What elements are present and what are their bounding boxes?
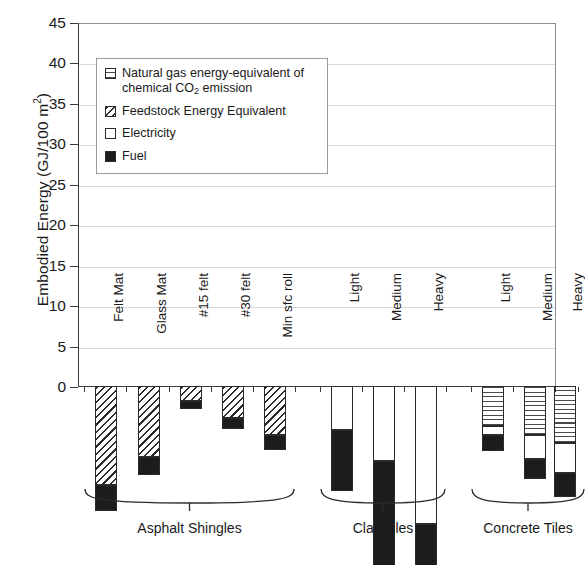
y-axis-tick-label: 35 — [8, 96, 66, 112]
feedstock-swatch-icon — [105, 106, 116, 117]
y-axis-tick-label: 10 — [8, 298, 66, 314]
group-brace-icon — [83, 487, 296, 513]
y-axis-title-text: Embodied Energy (GJ/100 m — [34, 104, 51, 306]
legend-label-natural-gas-line2post: emission — [199, 81, 252, 95]
bar-segment-fuel — [222, 418, 244, 429]
y-axis-tick — [70, 306, 78, 307]
y-axis-tick — [70, 23, 78, 24]
bar-segment-electricity — [373, 386, 395, 461]
legend-label-natural-gas-line1: Natural gas energy-equivalent of — [122, 66, 304, 80]
x-axis-category-label: Felt Mat — [111, 273, 126, 393]
bar-segment-fuel — [138, 457, 160, 475]
electricity-swatch-icon — [105, 128, 116, 139]
bar-segment-feedstock — [95, 386, 117, 485]
x-axis-category-label: Glass Mat — [154, 273, 169, 393]
x-axis-tick — [446, 387, 447, 392]
y-axis-tick — [70, 347, 78, 348]
y-axis-tick-label: 5 — [8, 339, 66, 355]
x-axis-category-label: Medium — [540, 273, 555, 393]
bar-segment-fuel — [180, 401, 202, 409]
bar-segment-fuel — [524, 459, 546, 479]
y-axis-tick-label: 25 — [8, 177, 66, 193]
legend-item-fuel: Fuel — [105, 149, 319, 164]
x-axis-tick — [253, 387, 254, 392]
y-axis-tick-label: 0 — [8, 379, 66, 395]
x-axis-category-label: #15 felt — [196, 273, 211, 393]
bar-segment-natural-gas — [554, 386, 576, 443]
x-axis-tick — [84, 387, 85, 392]
x-axis-tick — [295, 387, 296, 392]
y-axis-tick-label: 30 — [8, 136, 66, 152]
y-axis-tick-label: 15 — [8, 258, 66, 274]
x-axis-tick — [169, 387, 170, 392]
gridline — [79, 267, 555, 268]
x-axis-category-label: Light — [498, 273, 513, 393]
gridline — [79, 186, 555, 187]
group-label: Clay Tiles — [319, 520, 447, 536]
y-axis-tick-label: 45 — [8, 15, 66, 31]
legend-label-fuel: Fuel — [122, 149, 147, 164]
x-axis-tick — [362, 387, 363, 392]
x-axis-category-label: #30 felt — [238, 273, 253, 393]
legend: Natural gas energy-equivalent ofchemical… — [96, 58, 328, 174]
y-axis-tick — [70, 63, 78, 64]
bar-segment-feedstock — [264, 386, 286, 435]
legend-item-natural-gas: Natural gas energy-equivalent ofchemical… — [105, 66, 319, 97]
y-axis-tick-label: 20 — [8, 217, 66, 233]
group-brace-icon — [470, 487, 585, 513]
embodied-energy-chart: Embodied Energy (GJ/100 m2) 051015202530… — [0, 0, 585, 565]
fuel-swatch-icon — [105, 151, 116, 162]
x-axis-tick — [555, 387, 556, 392]
y-axis-tick — [70, 185, 78, 186]
legend-item-electricity: Electricity — [105, 126, 319, 141]
bar-segment-electricity — [524, 435, 546, 458]
x-axis-category-label: Medium — [389, 273, 404, 393]
x-axis-category-label: Min sfc roll — [280, 273, 295, 393]
bar-segment-feedstock — [138, 386, 160, 457]
bar-segment-fuel — [482, 435, 504, 451]
legend-label-natural-gas-sub: 2 — [194, 86, 199, 96]
x-axis-category-label: Light — [347, 273, 362, 393]
x-axis-tick — [471, 387, 472, 392]
gridline — [79, 226, 555, 227]
x-axis-tick — [513, 387, 514, 392]
natural-gas-swatch-icon — [105, 68, 116, 79]
group-label: Asphalt Shingles — [83, 520, 296, 536]
bar-segment-fuel — [264, 435, 286, 450]
y-axis-tick-label: 40 — [8, 55, 66, 71]
bar-segment-natural-gas — [524, 386, 546, 435]
group-label: Concrete Tiles — [470, 520, 585, 536]
legend-label-natural-gas: Natural gas energy-equivalent ofchemical… — [122, 66, 304, 97]
legend-label-electricity: Electricity — [122, 126, 176, 141]
group-brace-icon — [319, 487, 447, 513]
legend-label-natural-gas-line2pre: chemical CO — [122, 81, 194, 95]
y-axis-tick — [70, 266, 78, 267]
bar-segment-fuel — [331, 430, 353, 491]
y-axis-tick — [70, 104, 78, 105]
x-axis-tick — [320, 387, 321, 392]
x-axis-tick — [211, 387, 212, 392]
y-axis-tick — [70, 144, 78, 145]
y-axis-tick — [70, 387, 78, 388]
bar-segment-electricity — [554, 443, 576, 472]
y-axis-tick — [70, 225, 78, 226]
bar-segment-electricity — [482, 426, 504, 435]
legend-label-feedstock: Feedstock Energy Equivalent — [122, 104, 286, 119]
bar-segment-fuel — [373, 461, 395, 565]
x-axis-category-label: Heavy — [570, 273, 585, 393]
x-axis-tick — [126, 387, 127, 392]
legend-item-feedstock: Feedstock Energy Equivalent — [105, 104, 319, 119]
x-axis-category-label: Heavy — [431, 273, 446, 393]
x-axis-tick — [404, 387, 405, 392]
